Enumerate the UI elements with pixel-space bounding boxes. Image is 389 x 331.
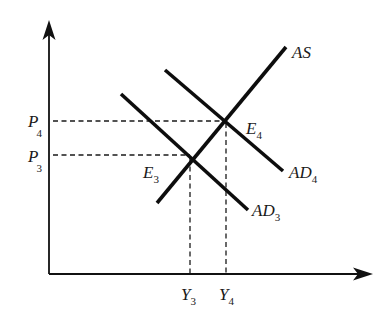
e3-label: E3 bbox=[142, 163, 159, 185]
guide-lines bbox=[53, 121, 226, 273]
p4-label: P4 bbox=[27, 112, 42, 139]
ad3-label: AD3 bbox=[251, 201, 281, 223]
ad3-curve bbox=[121, 94, 248, 210]
p3-label: P3 bbox=[27, 147, 42, 174]
e4-label: E4 bbox=[245, 119, 262, 141]
as-label: AS bbox=[291, 43, 311, 62]
axes bbox=[43, 20, 374, 281]
y4-label: Y4 bbox=[219, 285, 234, 307]
as-ad-diagram: AS AD4 AD3 E4 E3 P4 P3 Y3 Y4 bbox=[0, 0, 389, 331]
as-curve bbox=[157, 47, 286, 203]
ad4-label: AD4 bbox=[288, 163, 318, 185]
y3-label: Y3 bbox=[181, 285, 196, 307]
